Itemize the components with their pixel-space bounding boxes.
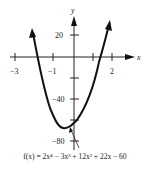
label-leader-line [71,130,79,148]
function-formula: f(x) = 2x⁴ − 3x³ + 12x² + 22x − 60 [0,152,150,161]
x-tick-label-2: 2 [110,67,114,76]
chart-canvas: x y −3 −1 2 20 −40 −80 [0,0,150,170]
curve-arrow-right-icon [105,20,112,31]
y-tick-label-neg40: −40 [52,95,65,104]
y-tick-label-20: 20 [55,31,63,40]
curve-arrow-left-icon [29,28,36,38]
y-axis-arrow-icon [71,16,77,26]
x-tick-label-neg3: −3 [10,67,19,76]
y-tick-label-neg80: −80 [52,137,65,146]
y-axis-label: y [70,6,75,15]
function-curve [33,24,109,128]
x-axis-label: x [136,53,141,62]
leader-arrow-icon [69,127,73,133]
x-axis-arrow-icon [125,54,135,60]
x-tick-label-neg1: −1 [48,67,57,76]
